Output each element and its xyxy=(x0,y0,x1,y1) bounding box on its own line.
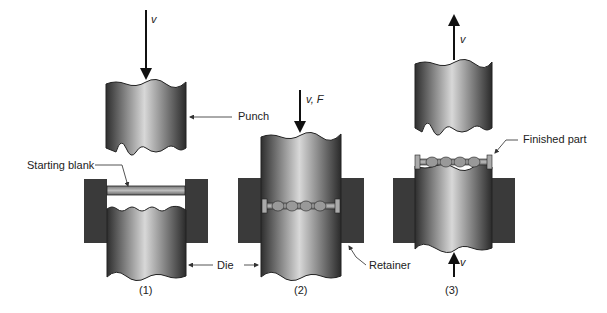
velocity-label-3-bottom: v xyxy=(460,257,466,268)
step-3 xyxy=(393,16,518,277)
die xyxy=(107,206,186,280)
retainer-leader xyxy=(349,246,366,265)
coining-diagram xyxy=(0,0,607,313)
starting-blank-label: Starting blank xyxy=(27,160,94,171)
retainer-left xyxy=(393,178,415,243)
finished-part-leader xyxy=(495,140,518,153)
punch xyxy=(106,79,186,155)
step-1-label: (1) xyxy=(139,285,152,296)
retainer-right xyxy=(185,179,208,243)
retainer-right xyxy=(492,178,515,243)
punch-retracted xyxy=(415,59,492,135)
step-2-label: (2) xyxy=(294,285,307,296)
punch-label: Punch xyxy=(238,111,269,122)
velocity-label-1: v xyxy=(151,14,157,25)
velocity-label-3-top: v xyxy=(460,34,466,45)
step-1 xyxy=(84,10,232,281)
retainer-left xyxy=(238,178,261,243)
die-ejected xyxy=(415,162,492,252)
finished-part-label: Finished part xyxy=(523,134,587,145)
retainer-right xyxy=(341,178,364,243)
step-3-label: (3) xyxy=(445,285,458,296)
retainer-label: Retainer xyxy=(369,260,411,271)
die-label: Die xyxy=(217,260,234,271)
starting-blank xyxy=(107,186,185,195)
retainer-left xyxy=(84,179,107,243)
velocity-force-label: v, F xyxy=(306,94,324,105)
